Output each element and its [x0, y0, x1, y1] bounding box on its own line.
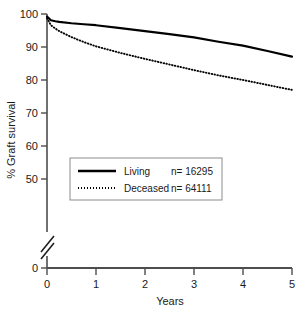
y-axis-title: % Graft survival [5, 101, 17, 179]
y-tick-label-50: 50 [26, 173, 38, 185]
x-axis-title: Years [156, 295, 184, 307]
x-tick-label-4: 4 [240, 278, 246, 290]
chart-canvas: 100 90 80 70 60 50 0 0 1 2 3 4 5 [0, 0, 305, 309]
legend-label-living: Living [124, 166, 150, 177]
x-tick-label-0: 0 [44, 278, 50, 290]
graft-survival-chart: 100 90 80 70 60 50 0 0 1 2 3 4 5 [0, 0, 305, 309]
legend-label-deceased: Deceased [124, 183, 169, 194]
legend-count-living: n= 16295 [171, 166, 213, 177]
x-tick-label-2: 2 [142, 278, 148, 290]
y-tick-label-zero: 0 [32, 262, 38, 274]
x-tick-label-1: 1 [93, 278, 99, 290]
x-tick-label-5: 5 [289, 278, 295, 290]
y-tick-label-90: 90 [26, 41, 38, 53]
x-tick-label-3: 3 [191, 278, 197, 290]
legend: Living n= 16295 Deceased n= 64111 [70, 158, 222, 200]
legend-count-deceased: n= 64111 [171, 183, 212, 194]
y-tick-label-100: 100 [20, 8, 38, 20]
y-tick-label-80: 80 [26, 74, 38, 86]
y-tick-label-70: 70 [26, 107, 38, 119]
y-tick-label-60: 60 [26, 140, 38, 152]
